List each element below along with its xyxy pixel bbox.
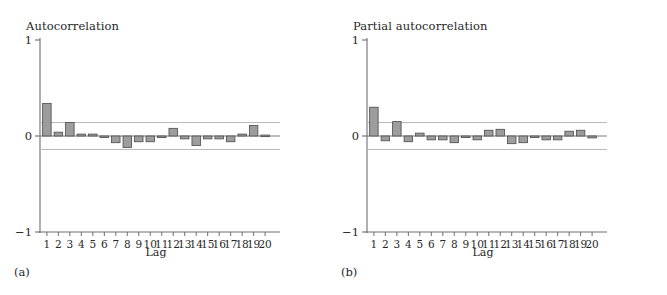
y-tick-label: 1	[25, 33, 32, 47]
bar-lag-15	[530, 136, 538, 138]
panel-title: Autocorrelation	[26, 19, 119, 33]
bar-lag-6	[427, 136, 435, 140]
bar-lag-3	[66, 123, 74, 136]
bar-lag-16	[215, 136, 223, 139]
y-tick-label: 0	[352, 129, 359, 143]
bar-lag-12	[496, 129, 504, 136]
bar-lag-9	[135, 136, 143, 142]
bar-lag-13	[180, 136, 188, 139]
bar-lag-15	[203, 136, 211, 139]
bar-lag-5	[89, 134, 97, 136]
bar-lag-7	[112, 136, 120, 143]
panel-tag: (a)	[14, 265, 30, 279]
bar-lag-6	[100, 136, 108, 138]
plot-area-b: 10−11234567891011121314151617181920	[367, 40, 599, 232]
bar-lag-2	[381, 136, 389, 141]
bar-lag-12	[169, 128, 177, 136]
panel-title: Partial autocorrelation	[353, 19, 488, 33]
acf-pacf-figure: Autocorrelation 10−112345678910111213141…	[0, 0, 667, 295]
bar-lag-2	[54, 132, 62, 136]
bar-lag-7	[439, 136, 447, 140]
bar-lag-8	[450, 136, 458, 143]
bar-lag-9	[462, 136, 470, 138]
plot-area-a: 10−11234567891011121314151617181920	[40, 40, 272, 232]
bar-lag-17	[553, 136, 561, 140]
bar-lag-13	[507, 136, 515, 144]
y-tick-label: −1	[15, 225, 32, 239]
bar-lag-20	[588, 136, 596, 138]
bar-lag-14	[192, 136, 200, 146]
bar-lag-8	[123, 136, 131, 148]
y-tick-label: −1	[342, 225, 359, 239]
y-tick-label: 1	[352, 33, 359, 47]
acf-plot-svg: 10−11234567891011121314151617181920	[40, 40, 272, 232]
x-axis-label: Lag	[367, 246, 599, 259]
bar-lag-1	[370, 107, 378, 136]
bar-lag-17	[226, 136, 234, 142]
x-axis-label: Lag	[40, 246, 272, 259]
bar-lag-20	[261, 135, 269, 137]
bar-lag-10	[146, 136, 154, 142]
bar-lag-18	[238, 134, 246, 136]
bar-lag-4	[77, 134, 85, 136]
panel-autocorrelation: Autocorrelation 10−112345678910111213141…	[0, 0, 333, 295]
bar-lag-14	[519, 136, 527, 143]
bar-lag-16	[542, 136, 550, 140]
panel-partial-autocorrelation: Partial autocorrelation 10−1123456789101…	[333, 0, 667, 295]
bar-lag-18	[565, 131, 573, 136]
bar-lag-11	[484, 130, 492, 136]
bar-lag-10	[473, 136, 481, 140]
bar-lag-19	[576, 130, 584, 136]
panel-tag: (b)	[341, 265, 357, 279]
pacf-plot-svg: 10−11234567891011121314151617181920	[367, 40, 599, 232]
bar-lag-4	[404, 136, 412, 142]
bar-lag-1	[43, 103, 51, 136]
y-tick-label: 0	[25, 129, 32, 143]
bar-lag-3	[393, 122, 401, 136]
bar-lag-19	[249, 125, 257, 136]
bar-lag-5	[416, 133, 424, 136]
bar-lag-11	[157, 136, 165, 138]
